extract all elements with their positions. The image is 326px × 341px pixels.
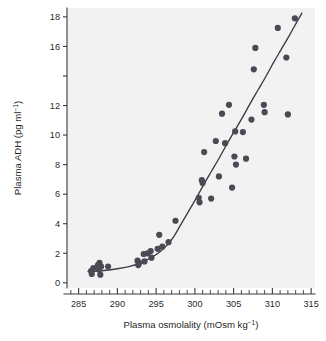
data-point <box>231 153 237 159</box>
figure-container: 0246810121618 285290295300305310315 Plas… <box>0 0 326 341</box>
data-point <box>156 232 162 238</box>
data-point <box>219 111 225 117</box>
data-point <box>208 196 214 202</box>
x-tick-label: 285 <box>71 299 86 309</box>
data-point <box>141 258 147 264</box>
data-point <box>229 184 235 190</box>
data-point <box>283 54 289 60</box>
data-point <box>159 244 165 250</box>
data-point <box>240 129 246 135</box>
data-point <box>248 116 254 122</box>
y-tick-label: 8 <box>55 160 60 170</box>
x-tick-label: 300 <box>187 299 202 309</box>
x-axis-title-text: Plasma osmolality (mOsm kg−1) <box>124 319 259 330</box>
data-point <box>105 263 111 269</box>
data-point <box>201 149 207 155</box>
data-point <box>196 199 202 205</box>
y-tick-label: 10 <box>50 130 60 140</box>
x-tick-label: 290 <box>110 299 125 309</box>
plot-area-background <box>67 8 315 288</box>
data-point <box>243 156 249 162</box>
data-point <box>275 25 281 31</box>
data-point <box>213 138 219 144</box>
scatter-plot: 0246810121618 285290295300305310315 Plas… <box>0 0 326 341</box>
data-point <box>136 260 142 266</box>
data-point <box>252 45 258 51</box>
data-point <box>216 173 222 179</box>
data-point <box>98 263 104 269</box>
data-point <box>285 111 291 117</box>
x-tick-label: 295 <box>148 299 163 309</box>
y-tick-label: 12 <box>50 101 60 111</box>
data-point <box>200 180 206 186</box>
y-tick-label: 16 <box>50 42 60 52</box>
data-point <box>262 109 268 115</box>
y-axis-title-text: Plasma ADH (pg ml−1) <box>12 101 23 195</box>
data-point <box>172 218 178 224</box>
data-point <box>233 162 239 168</box>
x-axis-title: Plasma osmolality (mOsm kg−1) <box>124 319 259 330</box>
data-point <box>251 66 257 72</box>
data-point <box>89 271 95 277</box>
data-point <box>232 128 238 134</box>
data-point <box>165 239 171 245</box>
y-tick-label: 4 <box>55 219 60 229</box>
data-point <box>261 102 267 108</box>
data-point <box>148 248 154 254</box>
data-point <box>97 272 103 278</box>
x-tick-label: 315 <box>303 299 318 309</box>
y-tick-label: 18 <box>50 12 60 22</box>
data-point <box>292 15 298 21</box>
y-tick-label: 6 <box>55 189 60 199</box>
data-point <box>222 140 228 146</box>
x-tick-label: 305 <box>226 299 241 309</box>
y-tick-label: 2 <box>55 249 60 259</box>
data-point <box>148 255 154 261</box>
data-point <box>226 102 232 108</box>
y-tick-label: 0 <box>55 278 60 288</box>
y-axis-title: Plasma ADH (pg ml−1) <box>12 101 23 195</box>
x-tick-label: 310 <box>265 299 280 309</box>
